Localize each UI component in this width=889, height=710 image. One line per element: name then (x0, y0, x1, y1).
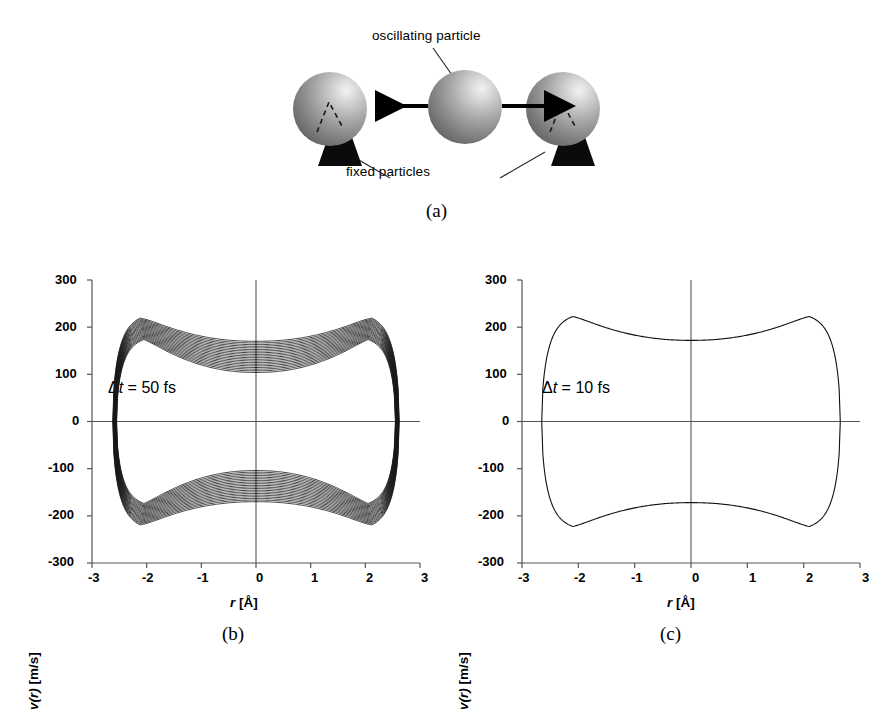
panel-a-schematic: oscillating particle (0, 0, 889, 240)
phase-plot-b-canvas (0, 255, 445, 685)
panel-b-plot: v(r) [m/s] 300 200 100 0 -100 -200 -300 … (0, 255, 445, 685)
label-fixed-particles: fixed particles (346, 164, 430, 179)
panel-c-plot: v(r) [m/s] 300 200 100 0 -100 -200 -300 … (430, 255, 889, 685)
phase-plot-c-canvas (430, 255, 889, 685)
panel-tag-a: (a) (426, 200, 447, 222)
